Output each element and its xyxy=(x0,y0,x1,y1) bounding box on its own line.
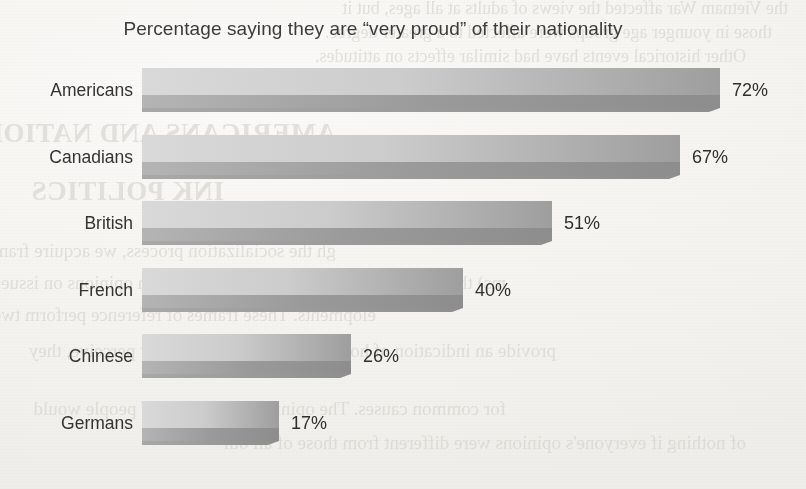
bar-category-label: Americans xyxy=(0,80,133,101)
bar-row: French 40% xyxy=(0,268,806,312)
bar-category-label: British xyxy=(0,213,133,234)
bar-value-label: 72% xyxy=(732,80,768,101)
bar[interactable] xyxy=(142,401,283,445)
bar-row: Chinese 26% xyxy=(0,334,806,378)
bar-row: Americans 72% xyxy=(0,68,806,112)
bar-category-label: Chinese xyxy=(0,346,133,367)
bar-value-label: 51% xyxy=(564,213,600,234)
bar-row: Germans 17% xyxy=(0,401,806,445)
bar[interactable] xyxy=(142,334,355,378)
bar[interactable] xyxy=(142,135,684,179)
bar-chart: Percentage saying they are “very proud” … xyxy=(0,0,806,489)
bar-category-label: Germans xyxy=(0,412,133,433)
bar-value-label: 67% xyxy=(692,146,728,167)
bar-row: British 51% xyxy=(0,201,806,245)
chart-title: Percentage saying they are “very proud” … xyxy=(0,18,746,40)
bar-value-label: 26% xyxy=(363,346,399,367)
bar-value-label: 40% xyxy=(475,279,511,300)
bar-category-label: Canadians xyxy=(0,146,133,167)
bar-row: Canadians 67% xyxy=(0,135,806,179)
bar[interactable] xyxy=(142,201,556,245)
bar[interactable] xyxy=(142,68,724,112)
bar[interactable] xyxy=(142,268,467,312)
bar-category-label: French xyxy=(0,279,133,300)
bar-value-label: 17% xyxy=(291,412,327,433)
